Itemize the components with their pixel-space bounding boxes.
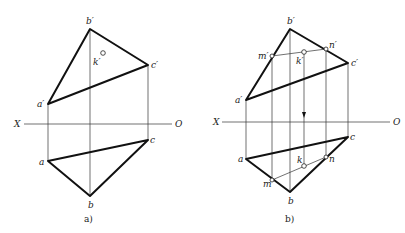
point-n (324, 155, 328, 159)
axis-label-x: X (13, 119, 21, 129)
label-a-prime: a′ (235, 95, 242, 105)
label-b-prime: b′ (86, 16, 94, 26)
label-k: k (297, 155, 302, 165)
label-a: a (238, 154, 243, 164)
label-c-prime: c′ (151, 60, 158, 70)
label-b-prime: b′ (287, 16, 295, 26)
axis-label-o: O (175, 119, 183, 129)
panel-b (222, 29, 390, 192)
line-m-n-prime (272, 49, 326, 56)
label-b: b (88, 200, 94, 210)
projection-diagram: b′ c′ a′ k′ X O a c b a) b′ c′ a′ m′ k′ … (0, 0, 405, 233)
label-k-prime: k′ (296, 56, 304, 66)
label-c-prime: c′ (351, 58, 358, 68)
label-k-prime: k′ (93, 57, 101, 67)
point-m-prime (270, 54, 274, 58)
point-k-prime (302, 50, 307, 55)
caption-b: b) (285, 214, 294, 224)
label-m: m (263, 179, 272, 189)
caption-a: a) (84, 214, 93, 224)
label-a: a (39, 157, 44, 167)
label-n-prime: n′ (329, 40, 337, 50)
label-c: c (350, 132, 355, 142)
label-n: n (329, 154, 335, 164)
axis-label-o: O (393, 117, 401, 127)
point-k-prime (101, 51, 106, 56)
point-n-prime (324, 47, 328, 51)
label-a-prime: a′ (37, 99, 44, 109)
down-arrow-icon (302, 112, 306, 118)
label-m-prime: m′ (258, 51, 269, 61)
axis-label-x: X (212, 117, 220, 127)
label-c: c (150, 135, 155, 145)
top-view-triangle (48, 140, 148, 196)
panel-a (24, 29, 172, 196)
label-b: b (288, 196, 294, 206)
